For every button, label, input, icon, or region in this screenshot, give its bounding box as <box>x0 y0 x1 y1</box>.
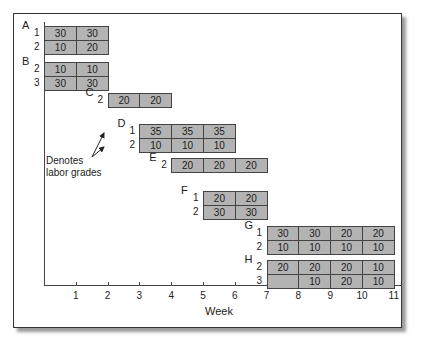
annotation-arrows-icon <box>0 0 434 343</box>
